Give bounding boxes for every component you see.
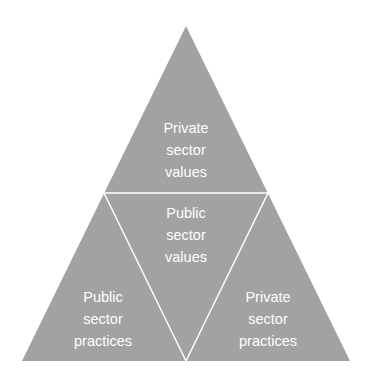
segment-bottom-right-line-3: practices: [218, 330, 318, 352]
segment-bottom-left-line-2: sector: [53, 308, 153, 330]
segment-top-line-1: Private: [136, 117, 236, 139]
segment-bottom-left-line-3: practices: [53, 330, 153, 352]
segment-bottom-right-line-1: Private: [218, 286, 318, 308]
segment-bottom-left-label: Public sector practices: [53, 286, 153, 352]
segment-bottom-right-label: Private sector practices: [218, 286, 318, 352]
segment-top-line-3: values: [136, 161, 236, 183]
segment-center-line-2: sector: [136, 224, 236, 246]
segment-top-label: Private sector values: [136, 117, 236, 183]
segment-center-line-3: values: [136, 246, 236, 268]
segment-top-line-2: sector: [136, 139, 236, 161]
segment-bottom-right-line-2: sector: [218, 308, 318, 330]
segment-center-label: Public sector values: [136, 202, 236, 268]
segment-bottom-left-line-1: Public: [53, 286, 153, 308]
segment-center-line-1: Public: [136, 202, 236, 224]
